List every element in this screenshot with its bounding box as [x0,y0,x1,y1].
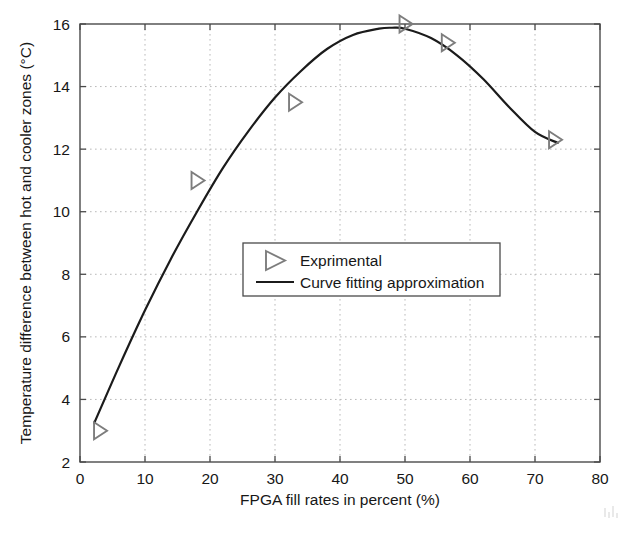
y-tick-label: 8 [61,266,70,283]
x-tick-label: 20 [201,470,219,487]
x-tick-label: 0 [76,470,85,487]
x-axis-tick-labels: 01020304050607080 [76,470,609,487]
x-tick-label: 30 [266,470,284,487]
scan-artifact [604,506,618,518]
x-tick-label: 80 [591,470,609,487]
y-axis-tick-labels: 246810121416 [53,16,71,471]
chart-legend[interactable]: Exprimental Curve fitting approximation [243,243,500,296]
y-tick-label: 16 [53,16,70,33]
y-tick-label: 2 [61,454,70,471]
y-axis-title: Temperature difference between hot and c… [17,42,34,444]
y-tick-label: 12 [53,141,70,158]
x-tick-label: 60 [461,470,479,487]
chart-figure: 01020304050607080 246810121416 FPGA fill… [0,0,635,534]
x-tick-label: 70 [526,470,544,487]
y-tick-label: 4 [61,391,70,408]
legend-label-exprimental: Exprimental [300,252,382,269]
chart-canvas: 01020304050607080 246810121416 FPGA fill… [0,0,635,534]
x-tick-label: 50 [396,470,414,487]
y-tick-label: 14 [53,78,71,95]
x-axis-title: FPGA fill rates in percent (%) [240,491,440,508]
x-tick-label: 40 [331,470,349,487]
y-tick-label: 10 [53,203,71,220]
y-tick-label: 6 [61,328,70,345]
x-tick-label: 10 [136,470,154,487]
legend-label-curve-fitting: Curve fitting approximation [300,274,484,291]
